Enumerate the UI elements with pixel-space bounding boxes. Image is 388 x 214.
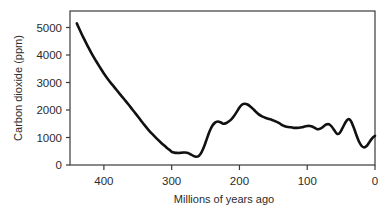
x-tick-label: 400 <box>94 175 113 187</box>
y-tick-label: 0 <box>56 159 62 171</box>
y-tick-label: 1000 <box>36 132 62 144</box>
co2-line-chart: 010002000300040005000 4003002001000 Carb… <box>0 0 388 214</box>
y-tick-label: 5000 <box>36 22 62 34</box>
chart-container: 010002000300040005000 4003002001000 Carb… <box>0 0 388 214</box>
x-axis-label: Millions of years ago <box>174 193 274 205</box>
y-tick-label: 4000 <box>36 49 62 61</box>
y-axis-label: Carbon dioxide (ppm) <box>12 35 24 141</box>
x-tick-label: 300 <box>162 175 181 187</box>
y-tick-label: 3000 <box>36 77 62 89</box>
x-tick-label: 100 <box>298 175 317 187</box>
x-tick-label: 0 <box>372 175 378 187</box>
y-tick-label: 2000 <box>36 104 62 116</box>
x-tick-label: 200 <box>230 175 249 187</box>
